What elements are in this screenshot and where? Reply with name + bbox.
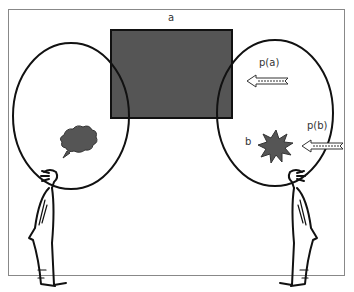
label-b: b [245,136,251,147]
label-pa: p(a) [259,57,279,68]
starburst-b-icon [258,130,293,163]
label-a: a [168,12,174,23]
thought-cloud-icon [60,126,97,158]
right-person-figure [280,170,317,286]
arrow-pa-icon [247,75,288,87]
label-pb: p(b) [307,120,328,131]
diagram-canvas [0,0,354,292]
arrow-pb-icon [302,140,343,152]
